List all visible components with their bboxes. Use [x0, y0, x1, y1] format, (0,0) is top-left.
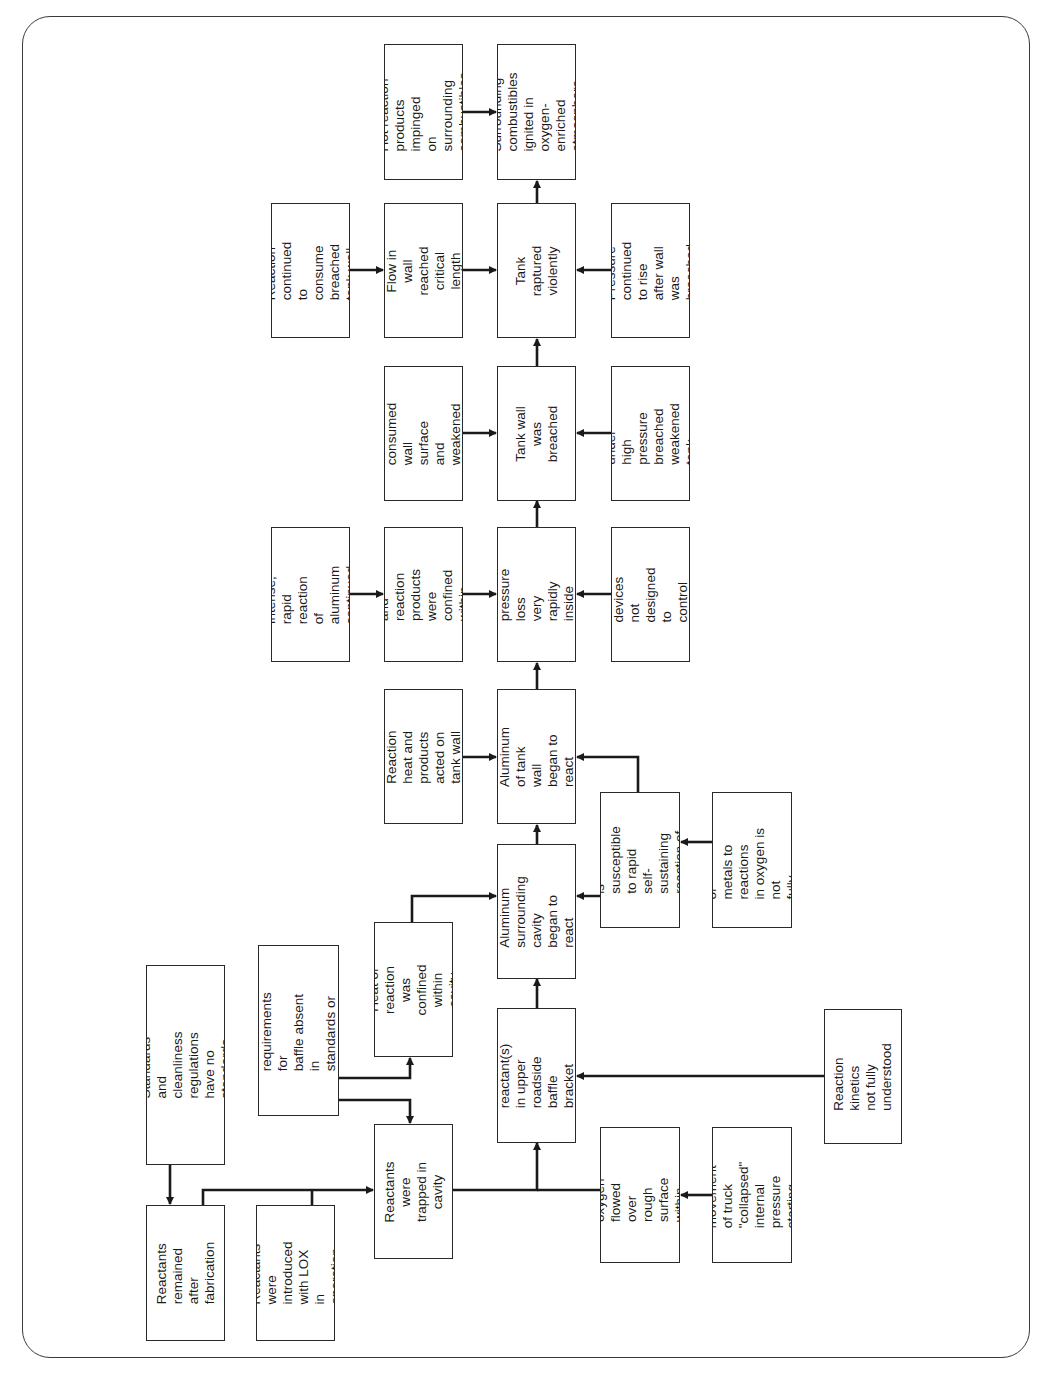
node-configuration-requirements: Configuration requirements for baffle ab… — [258, 945, 339, 1116]
node-safety-relief: Safety relief devices not designed to co… — [611, 527, 690, 662]
node-hot-reaction-products: Hot reaction products impinged on surrou… — [384, 44, 463, 180]
node-label: Pressure continued to rise after wall wa… — [611, 241, 690, 300]
node-internal-pressure: Internal pressure loss very rapidly insi… — [497, 527, 576, 662]
node-aluminum-susceptible: Aluminum is susceptible to rapid self-su… — [600, 792, 680, 928]
node-label: Standards and cleanliness regulations ha… — [146, 1032, 225, 1099]
node-reactants-introduced: Reactants were introduced with LOX in op… — [256, 1205, 335, 1341]
node-oxidation-began: Oxidation of reactant(s) in upper roadsi… — [497, 1008, 576, 1143]
node-normal-movement: Normal movement of truck "collapsed" int… — [712, 1127, 792, 1263]
node-label: Oxidation of reactant(s) in upper roadsi… — [497, 1043, 576, 1108]
node-label: Aluminum surrounding cavity began to rea… — [497, 876, 576, 947]
node-reactants-trapped: Reactants were trapped in cavity — [374, 1124, 453, 1259]
node-label: Gaseous oxygen flowed over rough surface… — [600, 1168, 680, 1222]
node-standards-cleanliness: Standards and cleanliness regulations ha… — [146, 965, 225, 1165]
node-pressure-continued: Pressure continued to rise after wall wa… — [611, 203, 690, 338]
node-gas-high-pressure: Gas under high pressure breached weakene… — [611, 366, 690, 501]
node-tank-wall-breached: Tank wall was breached — [497, 366, 576, 501]
node-label: Reactants remained after fabrication — [154, 1242, 218, 1304]
node-flow-in-wall: Flow in wall reached critical length — [384, 203, 463, 338]
node-label: Intense, rapid reaction of aluminum cont… — [271, 565, 350, 624]
node-label: Reaction kinetics not fully understood — [831, 1043, 895, 1111]
node-label: Internal pressure loss very rapidly insi… — [497, 568, 576, 621]
node-label: Tank raptured violently — [513, 245, 561, 295]
node-label: Configuration requirements for baffle ab… — [258, 990, 339, 1070]
node-label: Surrounding combustibles ignited in oxyg… — [497, 73, 576, 152]
node-reaction-consumed-wall: Reaction consumed wall surface and weake… — [384, 366, 463, 501]
node-label: Flow in wall reached critical length — [384, 246, 463, 295]
node-label: Reaction continued to consume breached t… — [271, 241, 350, 300]
node-reaction-continued: Reaction continued to consume breached t… — [271, 203, 350, 338]
node-aluminum-wall-react: Aluminum of tank wall began to react — [497, 689, 576, 824]
node-label: Gas under high pressure breached weakene… — [611, 403, 690, 465]
node-label: Susceptibility of metals to reactions in… — [712, 821, 792, 900]
node-heat-confined-cavity: Heat of reaction was confined within cav… — [374, 922, 453, 1057]
node-label: Reactants were trapped in cavity — [382, 1161, 446, 1222]
node-label: Normal movement of truck "collapsed" int… — [712, 1162, 792, 1229]
node-label: Heat and reaction products were confined… — [384, 569, 463, 621]
node-heat-products-confined-tank: Heat and reaction products were confined… — [384, 527, 463, 662]
node-label: Tank wall was breached — [513, 405, 561, 461]
node-label: Safety relief devices not designed to co… — [611, 567, 690, 622]
node-gaseous-oxygen: Gaseous oxygen flowed over rough surface… — [600, 1127, 680, 1263]
node-label: Reaction consumed wall surface and weake… — [384, 402, 463, 464]
node-label: Heat of reaction was confined within cav… — [374, 964, 453, 1015]
node-label: Aluminum of tank wall began to react — [497, 726, 576, 786]
node-aluminum-cavity-react: Aluminum surrounding cavity began to rea… — [497, 844, 576, 979]
node-label: Reaction heat and products acted on tank… — [384, 730, 463, 783]
node-intense-reaction: Intense, rapid reaction of aluminum cont… — [271, 527, 350, 662]
node-reactants-remained: Reactants remained after fabrication — [146, 1205, 225, 1341]
node-susceptibility-metals: Susceptibility of metals to reactions in… — [712, 792, 792, 928]
node-surrounding-ignited: Surrounding combustibles ignited in oxyg… — [497, 44, 576, 180]
node-label: Aluminum is susceptible to rapid self-su… — [600, 826, 680, 894]
node-reaction-kinetics: Reaction kinetics not fully understood — [824, 1009, 902, 1144]
node-reaction-heat-acted: Reaction heat and products acted on tank… — [384, 689, 463, 824]
node-tank-raptured: Tank raptured violently — [497, 203, 576, 338]
node-label: Hot reaction products impinged on surrou… — [384, 73, 463, 152]
node-label: Reactants were introduced with LOX in op… — [256, 1241, 335, 1304]
